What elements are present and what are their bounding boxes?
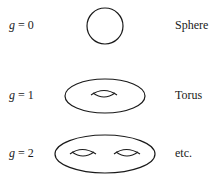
double-torus-hole-right [114, 150, 140, 157]
genus-label: g = 2 [9, 146, 34, 161]
surface-name: Torus [175, 88, 202, 103]
surface-name: Sphere [175, 18, 208, 33]
genus-label: g = 1 [9, 88, 34, 103]
double-torus-hole-left [70, 150, 96, 157]
torus-shape [65, 79, 145, 113]
surface-name: etc. [175, 146, 192, 161]
sphere-shape [87, 8, 123, 44]
genus-label: g = 0 [9, 18, 34, 33]
torus-hole [91, 91, 117, 98]
